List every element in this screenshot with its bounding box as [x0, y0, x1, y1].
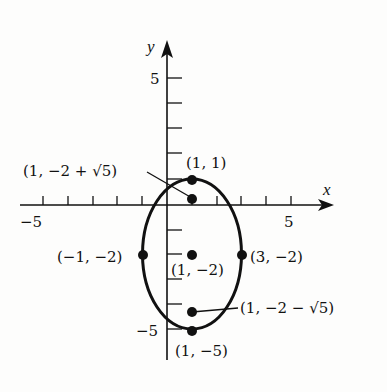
label-top-vertex: (1, 1) [186, 154, 226, 172]
point-right-vertex [237, 250, 247, 260]
point-center [187, 250, 197, 260]
point-bottom-vertex [187, 326, 197, 336]
label-upper-focus: (1, −2 + √5) [23, 162, 117, 180]
ellipse-diagram: x y −5 5 5 −5 (1, 1) (1, −2 + √5) (−1, −… [0, 0, 387, 392]
label-bottom-vertex: (1, −5) [175, 342, 228, 360]
y-axis [161, 40, 182, 360]
label-right-vertex: (3, −2) [250, 248, 303, 266]
x-axis-label: x [322, 180, 331, 199]
x-tick-label-neg5: −5 [20, 213, 42, 231]
label-center: (1, −2) [171, 261, 224, 279]
y-tick-label-5: 5 [150, 70, 160, 88]
label-left-vertex: (−1, −2) [57, 248, 122, 266]
point-lower-focus [187, 307, 197, 317]
x-tick-label-5: 5 [284, 213, 294, 231]
y-tick-label-neg5: −5 [136, 322, 158, 340]
y-axis-label: y [145, 37, 155, 56]
lower-focus-leader-line [192, 308, 238, 312]
points [138, 175, 247, 336]
point-top-vertex [187, 175, 197, 185]
point-upper-focus [187, 194, 197, 204]
upper-focus-leader-line [147, 172, 192, 198]
point-left-vertex [138, 250, 148, 260]
y-axis-ticks [167, 78, 182, 329]
label-lower-focus: (1, −2 − √5) [240, 299, 334, 317]
x-axis [20, 196, 334, 211]
